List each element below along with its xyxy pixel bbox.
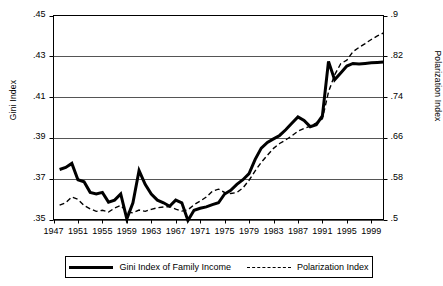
y-tick-label-left: .41: [20, 91, 46, 101]
legend-item-polarization: Polarization Index: [247, 262, 369, 272]
legend-label-gini: Gini Index of Family Income: [119, 262, 231, 272]
y-tick-label-left: .43: [20, 50, 46, 60]
y-tick-label-right: .58: [391, 172, 417, 182]
chart-legend: Gini Index of Family Income Polarization…: [65, 256, 373, 278]
y-axis-left-title: Gini Index: [8, 65, 18, 135]
legend-item-gini: Gini Index of Family Income: [69, 262, 231, 272]
y-tick-label-right: .9: [391, 9, 417, 19]
y-tick-label-right: .5: [391, 213, 417, 223]
y-tick-label-right: .66: [391, 131, 417, 141]
y-tick-label-right: .82: [391, 50, 417, 60]
dashed-line-swatch-icon: [247, 267, 291, 268]
legend-label-polarization: Polarization Index: [297, 262, 369, 272]
solid-line-swatch-icon: [69, 266, 113, 269]
y-tick-label-right: .74: [391, 91, 417, 101]
y-axis-right-title: Polarization Index: [433, 36, 443, 136]
y-tick-label-left: .35: [20, 213, 46, 223]
x-tick-label: 1999: [356, 226, 386, 236]
y-tick-label-left: .45: [20, 9, 46, 19]
y-tick-label-left: .39: [20, 131, 46, 141]
y-tick-label-left: .37: [20, 172, 46, 182]
